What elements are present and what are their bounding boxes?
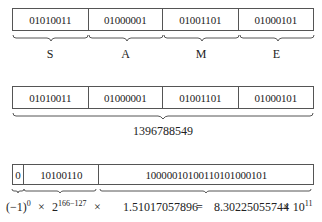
times-symbol-1: × xyxy=(38,200,45,215)
power-of-two: 2166−127 xyxy=(52,200,87,215)
sign-term: (−1)0 xyxy=(6,200,31,215)
result-exponent: × 1011 xyxy=(283,200,312,215)
equals-sign: = xyxy=(196,200,203,215)
result-value: 8.30225055744 xyxy=(214,200,289,215)
times-symbol-2: × xyxy=(94,200,101,215)
mantissa-value: 1.51017057896 xyxy=(123,200,198,215)
float-braces xyxy=(0,0,322,222)
